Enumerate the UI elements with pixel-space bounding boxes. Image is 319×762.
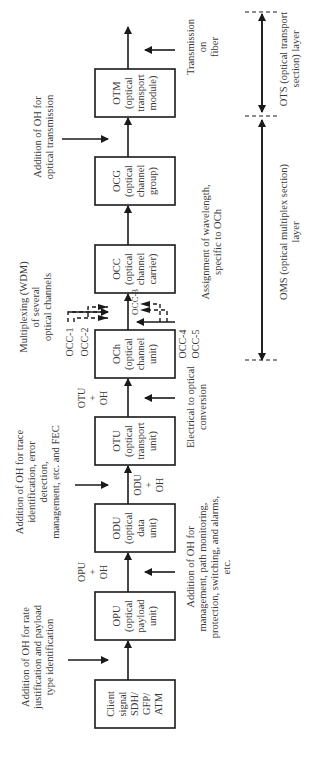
odu-plus-oh-label: ODU + OH	[132, 471, 165, 499]
occ-2-label: OCC-2	[79, 322, 90, 362]
och-label: OCh (optical channel unit)	[95, 330, 175, 378]
wavelength-assignment-annotation: Assignment of wavelength, specific to OC…	[200, 177, 224, 307]
rate-justification-annotation: Addition of OH for rate justification an…	[20, 592, 56, 722]
occ-1-label: OCC-1	[64, 322, 75, 362]
client-signal-label: Client signal SDH/ GFP/ ATM	[95, 680, 175, 728]
trace-identification-annotation: Addition of OH for trace identification,…	[14, 417, 62, 547]
ocg-label: OCG (optical channel group)	[95, 157, 175, 205]
wdm-multiplexing-annotation: Multiplexing (WDM) of several optical ch…	[18, 252, 54, 362]
otu-label: OTU (optical transport unit)	[95, 417, 175, 465]
oms-layer-label: OMS (optical multiplex section) layer	[278, 142, 302, 322]
electrical-to-optical-annotation: Electrical to optical conversion	[185, 352, 209, 462]
otn-hierarchy-diagram: Client signal SDH/ GFP/ ATM OPU (optical…	[0, 0, 319, 762]
diagram-frame: Client signal SDH/ GFP/ ATM OPU (optical…	[0, 0, 319, 762]
opu-label: OPU (optical payload unit)	[95, 592, 175, 640]
path-monitoring-annotation: Addition of OH for management, path moni…	[185, 487, 233, 647]
transmission-on-fiber-annotation: Transmission on fiber	[185, 12, 221, 82]
optical-transmission-annotation: Addition of OH for optical transmission	[32, 82, 56, 192]
odu-label: ODU (optical data unit)	[95, 504, 175, 552]
otu-plus-oh-label: OTU + OH	[76, 384, 109, 412]
opu-plus-oh-label: OPU + OH	[76, 558, 109, 586]
occ-3-label: OCC-3	[130, 282, 141, 322]
otm-label: OTM (optical transport module)	[95, 69, 175, 117]
ots-layer-label: OTS (optical transport section) layer	[278, 4, 302, 114]
